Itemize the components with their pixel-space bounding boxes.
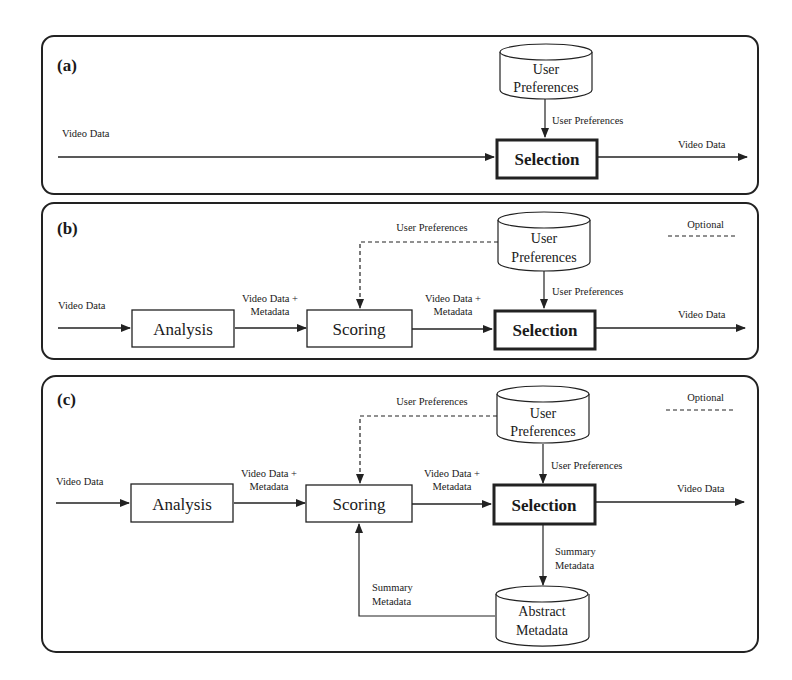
panel-b-input-label: Video Data xyxy=(58,300,106,311)
panel-c-as-label-1: Video Data + xyxy=(241,468,297,479)
panel-a-output-label: Video Data xyxy=(678,139,726,150)
panel-b-as-label-1: Video Data + xyxy=(242,293,298,304)
panel-b-output-label: Video Data xyxy=(678,309,726,320)
panel-b-analysis-label: Analysis xyxy=(153,320,213,339)
panel-b-ss-label-2: Metadata xyxy=(433,306,472,317)
panel-c-prefs-edge-label: User Preferences xyxy=(551,460,622,471)
panel-a-prefs-edge-label: User Preferences xyxy=(552,115,623,126)
panel-c: (c) Optional Video Data Analysis Video D… xyxy=(42,376,758,652)
panel-c-optional-prefs-label: User Preferences xyxy=(396,396,467,407)
panel-b-prefs-line2: Preferences xyxy=(511,250,576,265)
panel-c-abstract-line1: Abstract xyxy=(518,604,566,619)
panel-a-selection-label: Selection xyxy=(514,150,580,169)
panel-b-as-label-2: Metadata xyxy=(250,306,289,317)
panel-c-output-label: Video Data xyxy=(677,483,725,494)
panel-c-as-label-2: Metadata xyxy=(249,481,288,492)
panel-c-selection-label: Selection xyxy=(511,496,577,515)
panel-b-ss-label-1: Video Data + xyxy=(425,293,481,304)
panel-b-scoring-label: Scoring xyxy=(333,320,386,339)
panel-c-ss-label-2: Metadata xyxy=(432,481,471,492)
panel-c-legend-label: Optional xyxy=(687,392,724,403)
panel-c-input-label: Video Data xyxy=(56,476,104,487)
panel-c-ss-label-1: Video Data + xyxy=(424,468,480,479)
panel-b-prefs-edge-label: User Preferences xyxy=(552,286,623,297)
panel-c-analysis-label: Analysis xyxy=(152,495,212,514)
panel-a: (a) Video Data User Preferences User Pre… xyxy=(42,36,758,194)
panel-b-prefs-store: User Preferences xyxy=(498,212,590,271)
panel-c-prefs-line2: Preferences xyxy=(510,424,575,439)
panel-b-label: (b) xyxy=(57,219,78,238)
panel-c-scoring-label: Scoring xyxy=(333,495,386,514)
panel-c-summary-up-label-1: Summary xyxy=(372,582,414,593)
panel-b-prefs-line1: User xyxy=(531,231,558,246)
panel-a-input-label: Video Data xyxy=(62,128,110,139)
panel-c-prefs-line1: User xyxy=(530,406,557,421)
panel-b: (b) Optional Video Data Analysis Video D… xyxy=(42,203,758,359)
panel-c-summary-up-label-2: Metadata xyxy=(372,596,411,607)
panel-c-summary-down-label-1: Summary xyxy=(555,546,597,557)
panel-a-prefs-line2: Preferences xyxy=(513,80,578,95)
panel-b-optional-prefs-label: User Preferences xyxy=(396,222,467,233)
panel-a-frame xyxy=(42,36,758,194)
panel-b-legend-label: Optional xyxy=(687,219,724,230)
panel-a-prefs-line1: User xyxy=(533,62,560,77)
panel-a-prefs-store: User Preferences xyxy=(500,44,592,99)
panel-a-label: (a) xyxy=(57,56,77,75)
panel-b-selection-label: Selection xyxy=(512,321,578,340)
panel-c-abstract-store: Abstract Metadata xyxy=(496,586,589,646)
panel-c-label: (c) xyxy=(57,390,76,409)
panel-c-summary-down-label-2: Metadata xyxy=(555,560,594,571)
panel-c-prefs-store: User Preferences xyxy=(497,386,589,443)
diagram-canvas: (a) Video Data User Preferences User Pre… xyxy=(0,0,792,680)
panel-c-abstract-line2: Metadata xyxy=(516,623,569,638)
